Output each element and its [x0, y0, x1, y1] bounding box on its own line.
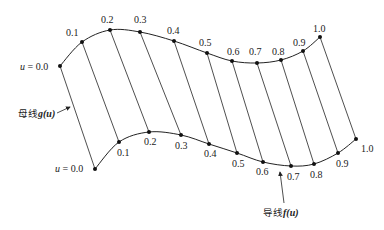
bottom-point — [261, 160, 265, 164]
ruling-line — [60, 66, 95, 169]
bottom-curve-f — [95, 132, 356, 169]
param-label: 0.3 — [134, 14, 147, 25]
directrix-label: 导线f(u) — [263, 207, 299, 219]
ruling-line — [303, 51, 338, 153]
top-start-label: u = 0.0 — [20, 61, 48, 72]
ruling-line — [174, 41, 209, 144]
bottom-point — [289, 164, 293, 168]
param-label: 0.9 — [293, 37, 306, 48]
param-label: 0.9 — [336, 158, 349, 169]
parameter-labels: 0.10.20.30.40.50.60.70.80.91.00.10.20.30… — [66, 14, 374, 182]
bottom-point — [354, 137, 358, 141]
param-label: 0.5 — [199, 37, 212, 48]
ruling-line — [110, 30, 149, 132]
bottom-point — [93, 167, 97, 171]
top-point — [279, 58, 283, 62]
generatrix-callout: 母线g(u) — [18, 107, 70, 120]
top-point — [255, 61, 259, 65]
top-point — [108, 28, 112, 32]
ruling-line — [257, 63, 291, 166]
top-point — [301, 49, 305, 53]
ruling-line — [232, 61, 263, 162]
param-label: 1.0 — [313, 23, 326, 34]
top-point — [172, 39, 176, 43]
ruling-line — [320, 37, 356, 139]
bottom-point — [312, 162, 316, 166]
top-point — [58, 64, 62, 68]
top-point — [230, 59, 234, 63]
param-label: 0.7 — [287, 171, 300, 182]
ruling-line — [281, 60, 314, 164]
bottom-point — [147, 130, 151, 134]
bottom-point — [207, 142, 211, 146]
generatrix-arrow-icon — [57, 107, 70, 113]
param-label: 0.6 — [256, 166, 269, 177]
param-label: 1.0 — [361, 143, 374, 154]
directrix-arrow-icon — [280, 172, 284, 203]
generatrix-label: 母线g(u) — [18, 108, 55, 120]
ruling-line — [140, 32, 181, 135]
param-label: 0.1 — [66, 27, 79, 38]
param-label: 0.6 — [227, 46, 240, 57]
top-point — [138, 30, 142, 34]
param-label: 0.3 — [175, 140, 188, 151]
bottom-point — [117, 140, 121, 144]
top-point — [80, 40, 84, 44]
bottom-point — [235, 151, 239, 155]
param-label: 0.5 — [232, 158, 245, 169]
bottom-point — [179, 133, 183, 137]
ruling-line — [82, 42, 119, 142]
param-label: 0.2 — [144, 136, 157, 147]
param-label: 0.2 — [101, 14, 114, 25]
param-label: 0.8 — [272, 46, 285, 57]
param-label: 0.4 — [204, 148, 217, 159]
bottom-start-label: u = 0.0 — [55, 163, 83, 174]
param-label: 0.8 — [310, 169, 323, 180]
bottom-point — [336, 151, 340, 155]
ruling-line — [207, 53, 237, 153]
param-label: 0.7 — [249, 46, 262, 57]
ruled-surface-diagram: 0.10.20.30.40.50.60.70.80.91.00.10.20.30… — [0, 0, 384, 230]
top-point — [318, 35, 322, 39]
diagram-canvas: 0.10.20.30.40.50.60.70.80.91.00.10.20.30… — [0, 0, 384, 230]
param-label: 0.4 — [167, 25, 180, 36]
top-point — [205, 51, 209, 55]
param-label: 0.1 — [117, 147, 130, 158]
